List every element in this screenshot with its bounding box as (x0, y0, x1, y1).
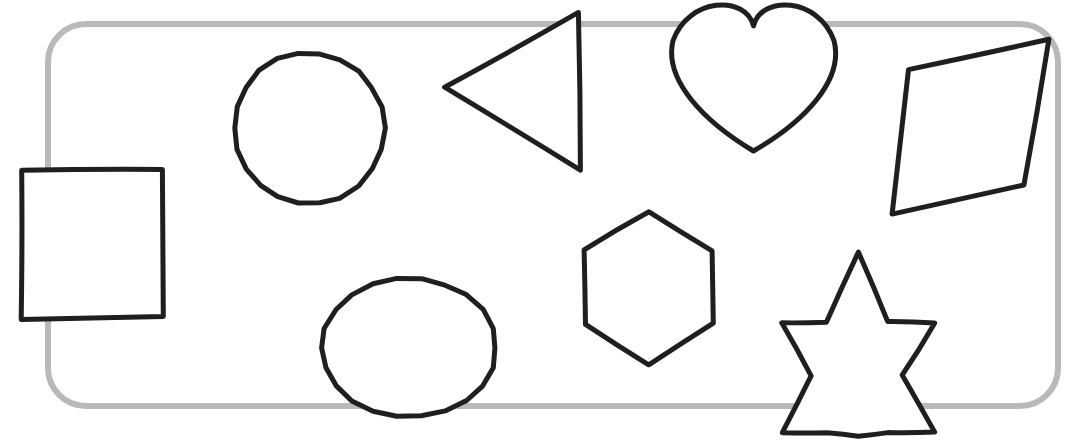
square-outline (21, 169, 163, 319)
shapes-illustration: SquareCircleTriangleHeartParallelogramEl… (0, 0, 1068, 447)
shape-square: Square (21, 169, 163, 319)
shapes-canvas: SquareCircleTriangleHeartParallelogramEl… (0, 0, 1068, 447)
ellipse-outline (322, 278, 495, 416)
shape-ellipse: Ellipse (322, 278, 495, 416)
circle-outline (235, 53, 386, 203)
shape-circle: Circle (235, 53, 386, 203)
